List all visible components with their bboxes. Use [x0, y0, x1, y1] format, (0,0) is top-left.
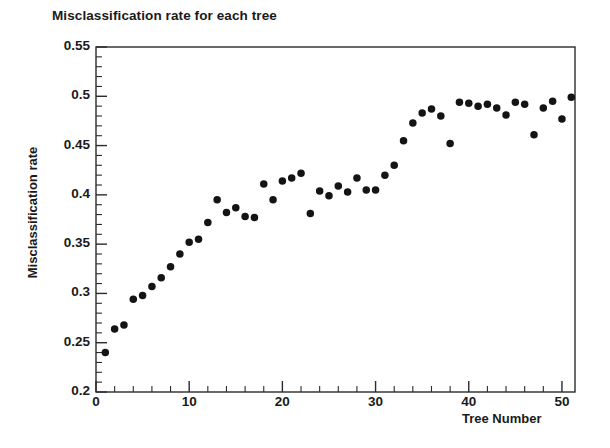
- data-point: [251, 214, 259, 222]
- data-point: [260, 180, 268, 188]
- data-point: [307, 210, 315, 218]
- data-point: [456, 98, 464, 106]
- y-tick-label: 0.5: [36, 87, 90, 102]
- data-point: [335, 182, 343, 190]
- data-point-layer: [102, 94, 575, 357]
- axes-border: [96, 47, 575, 392]
- data-point: [344, 188, 352, 196]
- data-point: [558, 115, 566, 123]
- data-point: [502, 111, 510, 119]
- x-tick-label: 20: [262, 394, 302, 409]
- data-point: [130, 296, 138, 304]
- data-point: [167, 263, 175, 271]
- y-tick-label: 0.55: [36, 38, 90, 53]
- data-point: [148, 283, 156, 291]
- data-point: [185, 238, 193, 246]
- data-point: [363, 186, 371, 194]
- data-point: [428, 105, 436, 113]
- data-point: [372, 186, 380, 194]
- data-point: [176, 250, 184, 258]
- data-point: [353, 174, 361, 182]
- x-tick-label: 40: [449, 394, 489, 409]
- y-tick-label: 0.4: [36, 186, 90, 201]
- data-point: [390, 162, 398, 170]
- data-point: [381, 171, 389, 179]
- data-point: [446, 140, 454, 148]
- data-point: [269, 196, 277, 204]
- data-point: [484, 100, 492, 108]
- axes-frame: [96, 47, 575, 392]
- data-point: [139, 292, 147, 300]
- y-tick-label: 0.35: [36, 235, 90, 250]
- data-point: [232, 204, 240, 212]
- data-point: [288, 174, 296, 182]
- data-point: [474, 102, 482, 110]
- plot-area: [0, 0, 610, 448]
- data-point: [409, 119, 417, 127]
- data-point: [325, 192, 333, 200]
- data-point: [512, 98, 520, 106]
- x-tick-label: 0: [76, 394, 116, 409]
- axis-ticks: [96, 47, 562, 392]
- data-point: [204, 219, 212, 227]
- data-point: [120, 321, 128, 329]
- data-point: [241, 213, 249, 221]
- x-tick-label: 10: [169, 394, 209, 409]
- data-point: [540, 104, 548, 112]
- x-tick-label: 50: [542, 394, 582, 409]
- data-point: [521, 100, 529, 108]
- data-point: [297, 169, 305, 177]
- data-point: [223, 209, 231, 217]
- data-point: [549, 97, 557, 105]
- data-point: [437, 112, 445, 120]
- data-point: [279, 177, 287, 185]
- data-point: [568, 94, 576, 102]
- y-tick-label: 0.45: [36, 137, 90, 152]
- data-point: [418, 109, 426, 117]
- data-point: [493, 104, 501, 112]
- data-point: [213, 196, 221, 204]
- chart-figure: Misclassification rate for each tree Mis…: [0, 0, 610, 448]
- data-point: [195, 235, 203, 243]
- data-point: [316, 187, 324, 195]
- data-point: [530, 131, 538, 139]
- data-point: [102, 349, 110, 357]
- data-point: [111, 325, 119, 333]
- data-point: [400, 137, 408, 145]
- x-tick-label: 30: [356, 394, 396, 409]
- data-point: [465, 99, 473, 107]
- y-tick-label: 0.25: [36, 334, 90, 349]
- data-point: [157, 274, 165, 282]
- y-tick-label: 0.3: [36, 284, 90, 299]
